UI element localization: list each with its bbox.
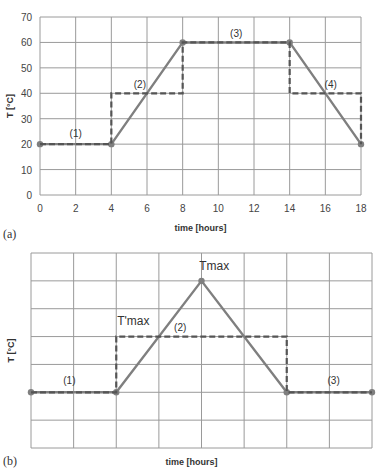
svg-text:70: 70 bbox=[21, 12, 33, 23]
gridlines bbox=[40, 17, 361, 195]
annotation-label: (2) bbox=[134, 79, 146, 90]
data-point-marker bbox=[198, 278, 204, 284]
svg-text:60: 60 bbox=[21, 37, 33, 48]
svg-text:14: 14 bbox=[284, 203, 296, 214]
svg-text:10: 10 bbox=[21, 165, 33, 176]
svg-text:6: 6 bbox=[144, 203, 150, 214]
svg-text:10: 10 bbox=[213, 203, 225, 214]
y-axis-label: T [°C] bbox=[5, 94, 15, 118]
svg-text:0: 0 bbox=[37, 203, 43, 214]
chart-panel-b: time [hours]T [°C](b)TmaxT'max(2)(1)(3) bbox=[3, 253, 375, 468]
annotation-label: (2) bbox=[174, 322, 186, 333]
x-axis-label: time [hours] bbox=[165, 457, 217, 467]
svg-text:40: 40 bbox=[21, 88, 33, 99]
figure-canvas: 024681012141618010203040506070time [hour… bbox=[0, 0, 387, 476]
panel-label: (b) bbox=[3, 454, 17, 468]
panel-label: (a) bbox=[3, 227, 16, 241]
svg-text:12: 12 bbox=[248, 203, 260, 214]
svg-text:18: 18 bbox=[355, 203, 367, 214]
svg-text:30: 30 bbox=[21, 114, 33, 125]
svg-text:4: 4 bbox=[109, 203, 115, 214]
svg-text:50: 50 bbox=[21, 63, 33, 74]
annotation-label: (3) bbox=[230, 28, 242, 39]
svg-text:2: 2 bbox=[73, 203, 79, 214]
annotation-label: T'max bbox=[117, 314, 149, 328]
svg-text:16: 16 bbox=[320, 203, 332, 214]
chart-panel-a: 024681012141618010203040506070time [hour… bbox=[3, 12, 367, 241]
x-axis-label: time [hours] bbox=[174, 223, 226, 233]
annotation-label: (4) bbox=[325, 79, 337, 90]
svg-text:8: 8 bbox=[180, 203, 186, 214]
svg-text:0: 0 bbox=[26, 190, 32, 201]
annotation-label: (1) bbox=[70, 128, 82, 139]
annotation-label: (3) bbox=[328, 375, 340, 386]
y-axis-ticks: 010203040506070 bbox=[21, 12, 33, 201]
annotation-label: Tmax bbox=[199, 259, 229, 273]
x-axis-ticks: 024681012141618 bbox=[37, 203, 367, 214]
annotation-label: (1) bbox=[63, 375, 75, 386]
svg-text:20: 20 bbox=[21, 139, 33, 150]
y-axis-label: T [°C] bbox=[6, 338, 16, 362]
